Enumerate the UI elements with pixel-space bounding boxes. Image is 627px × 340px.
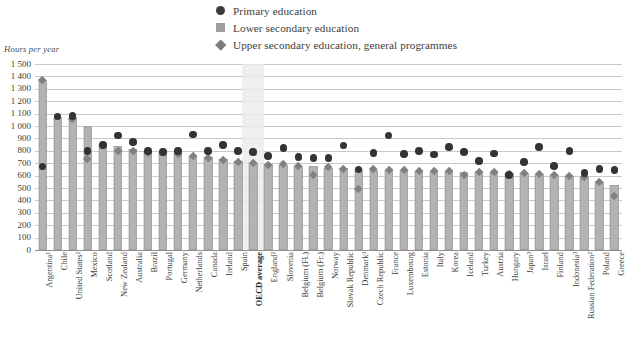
bar-lower-secondary[interactable] — [249, 163, 257, 250]
chart-column[interactable] — [547, 64, 562, 250]
marker-primary[interactable] — [234, 147, 242, 155]
bar-lower-secondary[interactable] — [580, 177, 588, 250]
marker-primary[interactable] — [550, 162, 558, 170]
marker-primary[interactable] — [189, 131, 197, 139]
marker-primary[interactable] — [310, 154, 318, 162]
marker-primary[interactable] — [596, 165, 604, 173]
chart-column[interactable] — [607, 64, 622, 250]
bar-lower-secondary[interactable] — [144, 151, 152, 250]
chart-column[interactable] — [426, 64, 441, 250]
chart-column[interactable] — [517, 64, 532, 250]
chart-column[interactable] — [562, 64, 577, 250]
chart-column[interactable] — [366, 64, 381, 250]
chart-column[interactable] — [396, 64, 411, 250]
bar-lower-secondary[interactable] — [159, 152, 167, 250]
marker-primary[interactable] — [204, 147, 212, 155]
chart-column[interactable] — [65, 64, 80, 250]
marker-primary[interactable] — [400, 150, 408, 158]
chart-column[interactable] — [80, 64, 95, 250]
marker-primary[interactable] — [490, 150, 498, 158]
bar-lower-secondary[interactable] — [264, 164, 272, 250]
chart-column[interactable] — [577, 64, 592, 250]
bar-lower-secondary[interactable] — [400, 170, 408, 250]
chart-column[interactable] — [216, 64, 231, 250]
chart-column[interactable] — [532, 64, 547, 250]
bar-lower-secondary[interactable] — [324, 168, 332, 250]
chart-column[interactable] — [110, 64, 125, 250]
bar-lower-secondary[interactable] — [595, 182, 603, 250]
bar-lower-secondary[interactable] — [294, 166, 302, 250]
chart-column[interactable] — [321, 64, 336, 250]
bar-lower-secondary[interactable] — [219, 159, 227, 250]
marker-primary[interactable] — [84, 147, 92, 155]
bar-lower-secondary[interactable] — [189, 156, 197, 250]
marker-primary[interactable] — [370, 149, 378, 157]
bar-lower-secondary[interactable] — [99, 144, 107, 250]
chart-column[interactable] — [411, 64, 426, 250]
chart-column[interactable] — [291, 64, 306, 250]
bar-lower-secondary[interactable] — [475, 172, 483, 250]
bar-lower-secondary[interactable] — [384, 170, 392, 250]
bar-lower-secondary[interactable] — [520, 173, 528, 250]
chart-column[interactable] — [170, 64, 185, 250]
bar-lower-secondary[interactable] — [234, 161, 242, 250]
bar-lower-secondary[interactable] — [354, 169, 362, 250]
bar-lower-secondary[interactable] — [550, 175, 558, 250]
marker-primary[interactable] — [460, 148, 468, 156]
chart-column[interactable] — [201, 64, 216, 250]
marker-primary[interactable] — [325, 154, 333, 162]
marker-primary[interactable] — [535, 143, 543, 151]
marker-primary[interactable] — [174, 147, 182, 155]
marker-primary[interactable] — [159, 148, 167, 156]
chart-column[interactable] — [471, 64, 486, 250]
bar-lower-secondary[interactable] — [53, 117, 61, 250]
chart-column[interactable] — [456, 64, 471, 250]
chart-column[interactable] — [231, 64, 246, 250]
marker-primary[interactable] — [144, 147, 152, 155]
bar-lower-secondary[interactable] — [129, 149, 137, 250]
marker-primary[interactable] — [475, 157, 483, 165]
chart-column[interactable] — [306, 64, 321, 250]
marker-primary[interactable] — [129, 138, 137, 146]
marker-primary[interactable] — [430, 151, 438, 159]
bar-lower-secondary[interactable] — [68, 117, 76, 250]
marker-primary[interactable] — [99, 141, 107, 149]
marker-primary[interactable] — [385, 132, 393, 140]
bar-lower-secondary[interactable] — [505, 173, 513, 250]
chart-column[interactable] — [487, 64, 502, 250]
marker-primary[interactable] — [219, 141, 227, 149]
marker-primary[interactable] — [264, 152, 272, 160]
marker-primary[interactable] — [415, 147, 423, 155]
marker-primary[interactable] — [445, 143, 453, 151]
bar-lower-secondary[interactable] — [83, 126, 91, 250]
bar-lower-secondary[interactable] — [204, 157, 212, 250]
chart-column[interactable] — [140, 64, 155, 250]
bar-lower-secondary[interactable] — [460, 172, 468, 250]
chart-column[interactable] — [336, 64, 351, 250]
marker-primary[interactable] — [249, 148, 257, 156]
marker-primary[interactable] — [505, 171, 513, 179]
chart-column[interactable] — [351, 64, 366, 250]
bar-lower-secondary[interactable] — [279, 165, 287, 250]
chart-column[interactable] — [261, 64, 276, 250]
marker-primary[interactable] — [611, 166, 619, 174]
chart-column[interactable] — [502, 64, 517, 250]
chart-column[interactable] — [276, 64, 291, 250]
bar-lower-secondary[interactable] — [490, 172, 498, 250]
chart-column[interactable] — [125, 64, 140, 250]
marker-primary[interactable] — [69, 112, 77, 120]
bar-lower-secondary[interactable] — [174, 153, 182, 250]
chart-column[interactable] — [246, 64, 261, 250]
bar-lower-secondary[interactable] — [430, 171, 438, 250]
chart-column[interactable] — [95, 64, 110, 250]
marker-primary[interactable] — [520, 158, 528, 166]
marker-primary[interactable] — [340, 142, 348, 150]
bar-lower-secondary[interactable] — [445, 171, 453, 250]
bar-lower-secondary[interactable] — [114, 146, 122, 250]
chart-column[interactable] — [155, 64, 170, 250]
marker-primary[interactable] — [566, 147, 574, 155]
bar-lower-secondary[interactable] — [339, 168, 347, 250]
bar-lower-secondary[interactable] — [565, 176, 573, 250]
bar-lower-secondary[interactable] — [369, 170, 377, 250]
marker-primary[interactable] — [114, 132, 122, 140]
